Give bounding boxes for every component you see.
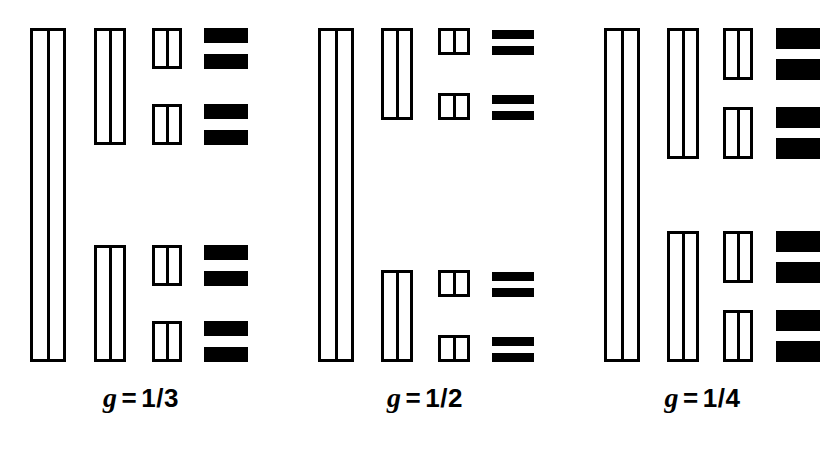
filled-segment xyxy=(204,104,248,119)
filled-segment xyxy=(776,28,820,49)
outlined-segment xyxy=(381,28,413,120)
filled-segment xyxy=(204,321,248,336)
outlined-segment xyxy=(94,245,126,362)
segment-divider-line xyxy=(109,248,112,359)
outlined-segment xyxy=(438,335,470,362)
caption-relation: = xyxy=(406,383,422,413)
caption-relation: = xyxy=(683,383,699,413)
segment-divider-line xyxy=(166,324,169,359)
figure-canvas: g=1/3g=1/2g=1/4 xyxy=(0,0,837,454)
filled-segment xyxy=(204,28,248,43)
segment-divider-line xyxy=(166,248,169,283)
caption-relation: = xyxy=(122,383,138,413)
segment-divider-line xyxy=(47,31,50,359)
filled-segment xyxy=(776,107,820,128)
filled-segment xyxy=(204,347,248,362)
filled-segment xyxy=(204,130,248,145)
filled-segment xyxy=(492,353,534,362)
segment-divider-line xyxy=(737,110,740,156)
panel-caption: g=1/4 xyxy=(568,382,837,414)
filled-segment xyxy=(492,95,534,104)
filled-segment xyxy=(492,111,534,120)
filled-segment xyxy=(204,245,248,260)
panel-1-2: g=1/2 xyxy=(282,0,568,454)
filled-segment xyxy=(204,271,248,286)
outlined-segment xyxy=(152,321,182,362)
outlined-segment xyxy=(667,28,699,159)
outlined-segment xyxy=(723,310,753,362)
outlined-segment xyxy=(723,231,753,283)
caption-value: 1/2 xyxy=(425,383,463,413)
panel-1-3: g=1/3 xyxy=(0,0,282,454)
segment-divider-line xyxy=(737,313,740,359)
segment-divider-line xyxy=(166,107,169,142)
segment-divider-line xyxy=(335,31,338,359)
filled-segment xyxy=(492,272,534,281)
outlined-segment xyxy=(438,270,470,297)
segment-divider-line xyxy=(737,31,740,77)
panel-caption: g=1/3 xyxy=(0,382,282,414)
segment-divider-line xyxy=(453,96,456,117)
segment-divider-line xyxy=(453,31,456,52)
segment-divider-line xyxy=(682,31,685,156)
filled-segment xyxy=(492,46,534,55)
outlined-segment xyxy=(381,270,413,362)
filled-segment xyxy=(776,310,820,331)
caption-symbol: g xyxy=(103,382,118,413)
segment-divider-line xyxy=(396,31,399,117)
outlined-segment xyxy=(94,28,126,145)
segment-divider-line xyxy=(396,273,399,359)
outlined-segment xyxy=(152,28,182,69)
outlined-segment xyxy=(152,245,182,286)
segment-divider-line xyxy=(453,338,456,359)
segment-divider-line xyxy=(621,31,624,359)
segment-divider-line xyxy=(109,31,112,142)
filled-segment xyxy=(776,138,820,159)
panel-caption: g=1/2 xyxy=(282,382,568,414)
filled-segment xyxy=(204,54,248,69)
outlined-segment xyxy=(723,107,753,159)
filled-segment xyxy=(776,262,820,283)
outlined-segment xyxy=(667,231,699,362)
filled-segment xyxy=(776,59,820,80)
filled-segment xyxy=(492,337,534,346)
filled-segment xyxy=(776,341,820,362)
panel-1-4: g=1/4 xyxy=(568,0,837,454)
outlined-segment xyxy=(438,28,470,55)
filled-segment xyxy=(492,30,534,39)
caption-value: 1/3 xyxy=(141,383,179,413)
filled-segment xyxy=(776,231,820,252)
segment-divider-line xyxy=(682,234,685,359)
outlined-segment xyxy=(723,28,753,80)
caption-value: 1/4 xyxy=(703,383,741,413)
segment-divider-line xyxy=(166,31,169,66)
segment-divider-line xyxy=(453,273,456,294)
filled-segment xyxy=(492,288,534,297)
outlined-segment xyxy=(152,104,182,145)
caption-symbol: g xyxy=(387,382,402,413)
outlined-segment xyxy=(318,28,354,362)
segment-divider-line xyxy=(737,234,740,280)
caption-symbol: g xyxy=(665,382,680,413)
outlined-segment xyxy=(438,93,470,120)
outlined-segment xyxy=(604,28,640,362)
outlined-segment xyxy=(30,28,66,362)
